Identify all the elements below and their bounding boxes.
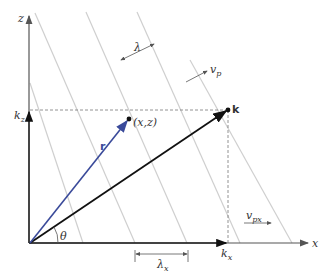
lambda-label: λ bbox=[133, 41, 141, 54]
point-xz bbox=[127, 117, 132, 122]
wave-vector-diagram: z x k r (x,z) kz kx θ λx λ vp vpx bbox=[0, 0, 330, 278]
z-axis-label: z bbox=[17, 12, 24, 25]
wavefronts bbox=[30, 12, 292, 243]
k-vector bbox=[30, 111, 226, 243]
r-vector bbox=[30, 121, 127, 243]
k-point bbox=[226, 108, 231, 113]
theta-label: θ bbox=[60, 230, 67, 243]
labels: z x k r (x,z) kz kx θ λx λ vp vpx bbox=[14, 12, 319, 273]
theta-arc bbox=[54, 227, 58, 243]
point-label: (x,z) bbox=[133, 116, 157, 129]
r-label: r bbox=[100, 140, 106, 153]
svg-text:vpx: vpx bbox=[246, 209, 262, 224]
svg-text:kz: kz bbox=[14, 109, 26, 124]
axes bbox=[29, 16, 308, 243]
lambda-x-label: λ bbox=[156, 258, 164, 271]
x-axis-label: x bbox=[312, 237, 319, 250]
svg-text:kx: kx bbox=[221, 247, 233, 262]
svg-text:vp: vp bbox=[210, 63, 221, 78]
k-label: k bbox=[232, 103, 240, 116]
svg-text:λx: λx bbox=[156, 258, 169, 273]
